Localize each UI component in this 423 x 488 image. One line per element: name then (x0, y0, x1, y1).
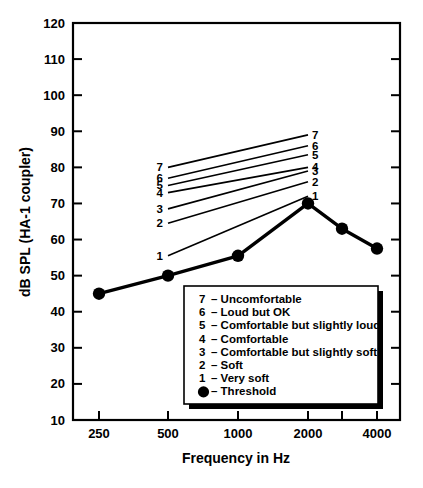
loudness-category-lines (168, 135, 308, 256)
category-label-right-2: 2 (312, 176, 318, 188)
legend-threshold-marker-icon (198, 386, 209, 397)
legend-key: 4 (199, 333, 206, 345)
y-tick-label: 70 (51, 196, 65, 211)
legend-entry-label: – Threshold (211, 385, 276, 397)
x-tick-label: 1000 (224, 426, 253, 441)
threshold-marker (162, 269, 174, 281)
chart-container: 102030405060708090100110120 250500100020… (0, 0, 423, 488)
x-axis-ticks (99, 411, 377, 420)
y-tick-label: 100 (43, 88, 65, 103)
loudness-growth-chart: 102030405060708090100110120 250500100020… (0, 0, 423, 488)
threshold-series (93, 197, 383, 300)
y-tick-label: 10 (51, 413, 65, 428)
loudness-category-labels-left: 1234567 (157, 161, 164, 261)
legend-entry-label: – Comfortable (211, 333, 288, 345)
legend-entry-label: – Uncomfortable (211, 293, 302, 305)
y-tick-label: 80 (51, 160, 65, 175)
threshold-marker (232, 250, 244, 262)
legend-key: 3 (199, 346, 205, 358)
category-label-left-3: 3 (157, 203, 163, 215)
x-tick-label: 2000 (294, 426, 323, 441)
legend-entry-label: – Comfortable but slightly soft (211, 346, 377, 358)
loudness-category-labels-right: 1234567 (312, 129, 319, 202)
legend-key: 7 (199, 293, 205, 305)
category-label-left-2: 2 (157, 217, 163, 229)
legend: 7– Uncomfortable6– Loud but OK5– Comfort… (184, 286, 383, 409)
category-label-right-7: 7 (312, 129, 318, 141)
y-tick-label: 110 (44, 52, 65, 67)
y-tick-label: 50 (51, 268, 65, 283)
x-tick-label: 4000 (363, 426, 392, 441)
y-axis-title: dB SPL (HA-1 coupler) (17, 147, 33, 297)
x-tick-label: 250 (88, 426, 110, 441)
category-label-left-1: 1 (157, 250, 164, 262)
threshold-line (99, 203, 377, 293)
legend-key: 1 (199, 372, 206, 384)
x-axis-title: Frequency in Hz (182, 450, 290, 466)
threshold-marker (93, 287, 105, 299)
legend-entry-label: – Soft (211, 359, 243, 371)
y-tick-label: 40 (51, 304, 65, 319)
threshold-marker (336, 223, 348, 235)
category-label-right-4: 4 (312, 161, 319, 173)
legend-key: 6 (199, 306, 205, 318)
legend-key: 2 (199, 359, 205, 371)
y-tick-label: 20 (51, 376, 65, 391)
category-label-left-6: 6 (157, 172, 163, 184)
category-label-left-7: 7 (157, 161, 163, 173)
y-tick-label: 30 (51, 340, 65, 355)
category-line-1 (168, 196, 308, 256)
threshold-marker (371, 242, 383, 254)
threshold-marker (302, 197, 314, 209)
legend-entry-label: – Comfortable but slightly loud (211, 319, 380, 331)
y-axis-tick-labels: 102030405060708090100110120 (43, 16, 65, 428)
legend-key: 5 (199, 319, 206, 331)
x-axis-tick-labels: 250500100020004000 (88, 426, 391, 441)
y-tick-label: 90 (51, 124, 65, 139)
y-tick-label: 60 (51, 232, 65, 247)
legend-entry-label: – Loud but OK (211, 306, 291, 318)
x-tick-label: 500 (157, 426, 179, 441)
category-label-right-6: 6 (312, 140, 318, 152)
legend-entry-label: – Very soft (211, 372, 269, 384)
y-tick-label: 120 (43, 16, 65, 31)
